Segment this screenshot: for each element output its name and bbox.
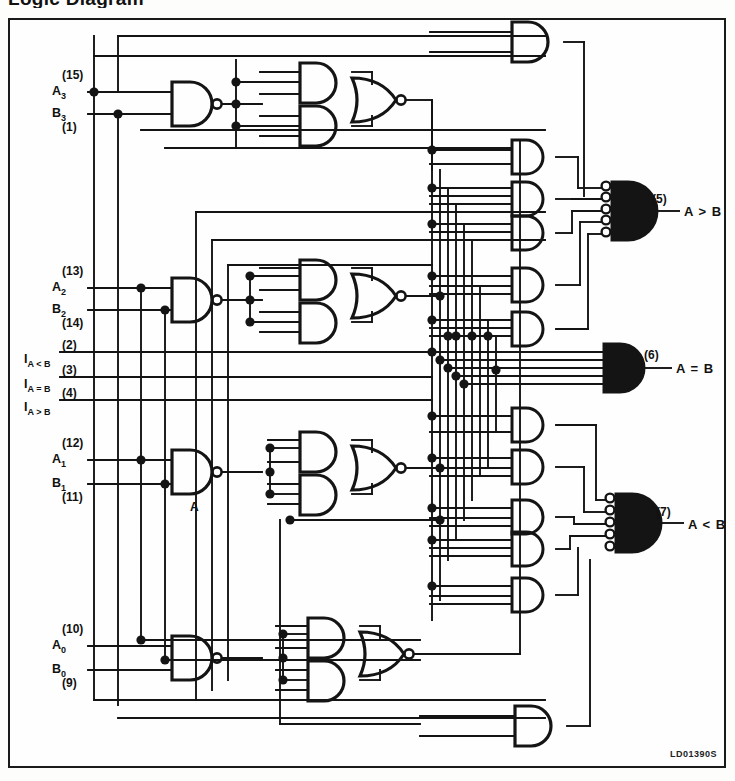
pin-label-iab-eq: (3) [62,363,77,377]
logic-diagram-page: Logic Diagram [0,0,735,781]
wire-junctions [89,77,500,684]
output-gate-a-equal-b [604,344,672,392]
output-label-altb: A < B [688,517,726,532]
pin-label-b1: (11) [62,490,83,504]
signal-label-a2: A2 [52,280,66,297]
pin-label-b0: (9) [62,676,77,690]
signal-label-a0: A0 [52,638,66,655]
output-gate-a-greater-b [602,182,680,240]
pin-label-output-aeqb: (6) [644,348,659,362]
signal-label-iab-eq: IA = B [24,377,50,394]
annotation-a: A [190,500,199,514]
output-label-aeqb: A = B [676,361,714,376]
output-label-agtb: A > B [684,204,722,219]
schematic-canvas [0,0,735,781]
pin-label-iab-lt: (2) [62,338,77,352]
pin-label-iab-gt: (4) [62,386,77,400]
pin-label-a1: (12) [62,436,83,450]
pin-label-a2: (13) [62,264,83,278]
pin-label-output-altb: (7) [656,505,671,519]
reference-code: LD01390S [670,749,717,759]
pin-label-b2: (14) [62,316,83,330]
pin-label-output-agtb: (5) [652,192,667,206]
signal-label-iab-lt: IA < B [24,352,50,369]
pin-label-a0: (10) [62,622,83,636]
signal-label-a3: A3 [52,84,66,101]
signal-label-iab-gt: IA > B [24,400,50,417]
pin-label-b3: (1) [62,120,77,134]
output-gate-a-less-b [606,494,684,552]
signal-label-a1: A1 [52,452,66,469]
pin-label-a3: (15) [62,68,83,82]
